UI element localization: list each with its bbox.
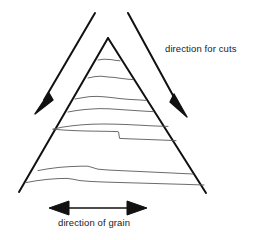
grain-arrow: [49, 201, 147, 215]
triangle-left-edge: [19, 38, 108, 192]
grain-line-wedge: [53, 124, 168, 129]
grain-arrow-head-right: [127, 201, 147, 215]
triangle-workpiece: [19, 38, 206, 193]
cut-arrow-left-head: [35, 93, 53, 114]
grain-line: [26, 178, 204, 185]
cut-arrow-left-shaft: [44, 13, 95, 100]
diagram-canvas: [0, 0, 257, 240]
grain-line: [38, 166, 193, 174]
cut-arrow-right: [128, 13, 187, 117]
grain-line: [75, 96, 146, 100]
grain-line: [68, 109, 153, 112]
cut-direction-label: direction for cuts: [165, 44, 237, 54]
cut-arrow-left: [35, 13, 95, 114]
grain-line: [98, 59, 120, 61]
grain-direction-diagram: direction for cuts direction of grain: [0, 0, 257, 240]
grain-direction-label: direction of grain: [58, 218, 130, 228]
triangle-right-edge: [108, 38, 206, 193]
grain-arrow-head-left: [49, 201, 69, 215]
cut-arrow-right-shaft: [128, 13, 176, 101]
grain-line: [88, 76, 133, 79]
grain-lines-group: [26, 59, 204, 185]
grain-line-wedge-return: [53, 129, 176, 140]
cut-arrow-right-head: [170, 94, 187, 117]
